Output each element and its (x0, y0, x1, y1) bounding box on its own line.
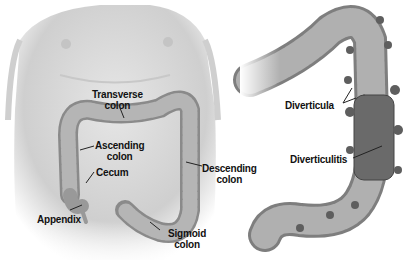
label-line: colon (95, 151, 144, 162)
label-transverse-colon: Transverse colon (92, 89, 143, 111)
label-line: Descending (202, 163, 257, 174)
label-line: colon (92, 100, 143, 111)
label-appendix: Appendix (37, 214, 81, 225)
label-line: Ascending (95, 140, 144, 151)
label-sigmoid-colon: Sigmoid colon (168, 228, 206, 250)
label-line: colon (168, 239, 206, 250)
label-diverticula: Diverticula (285, 100, 334, 111)
label-cecum: Cecum (96, 167, 128, 178)
label-descending-colon: Descending colon (202, 163, 257, 185)
anatomy-drawing (0, 0, 417, 273)
diverticulitis-illustration: Transverse colon Ascending colon Cecum A… (0, 0, 417, 273)
label-line: colon (202, 174, 257, 185)
colon-right (240, 16, 403, 235)
label-line: Transverse (92, 89, 143, 100)
label-line: Sigmoid (168, 228, 206, 239)
label-diverticulitis: Diverticulitis (290, 154, 347, 165)
label-ascending-colon: Ascending colon (95, 140, 144, 162)
